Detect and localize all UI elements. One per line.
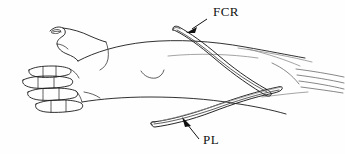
fcr-graft-tip [173, 28, 180, 30]
thumb-outline [50, 27, 78, 61]
forearm-group [78, 41, 312, 114]
pl-graft-shadow [160, 87, 282, 121]
label-fcr: FCR [213, 4, 239, 19]
wrist-radial-crease [100, 42, 108, 70]
fcr-callout [186, 19, 207, 33]
pl-callout [182, 117, 199, 139]
thumb-group [50, 27, 106, 61]
thumbnail-crease [53, 31, 61, 32]
forearm-radial-border [78, 41, 305, 61]
thumb-web-edge [63, 28, 106, 42]
finger-ring-outline [28, 88, 78, 100]
forearm-distal-contour [238, 48, 312, 62]
pl-graft-group [151, 87, 283, 127]
fcr-leader-line [192, 19, 207, 29]
label-pl: PL [203, 132, 219, 147]
fcr-graft-group [173, 26, 271, 96]
anatomical-line-drawing: FCR PL [0, 0, 345, 154]
forearm-ulnar-border [82, 97, 286, 114]
finger-little-outline [35, 100, 82, 112]
figure-container: FCR PL [0, 0, 345, 154]
pl-arrowhead [182, 117, 191, 127]
finger-middle-outline [23, 76, 73, 88]
fingers-group [23, 66, 83, 113]
wrist-ulnar-crease [84, 92, 100, 98]
volar-skin-crease [141, 70, 164, 78]
tendon-strand-junction [272, 63, 299, 84]
